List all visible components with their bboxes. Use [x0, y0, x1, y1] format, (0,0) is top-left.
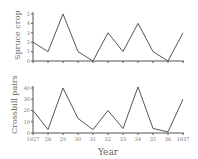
data-line	[33, 87, 183, 132]
x-tick-label: 31	[90, 136, 96, 142]
crossbill-pairs-ylabel: Crossbill pairs	[10, 75, 19, 134]
y-tick-label: 10	[24, 119, 30, 125]
y-tick-label: 1	[27, 48, 30, 54]
y-tick-label: 5	[27, 11, 30, 17]
y-tick-label: 30	[24, 96, 30, 102]
chart-canvas: 012345 010203040192728293031323334353619…	[0, 0, 198, 159]
y-tick-label: 2	[27, 39, 30, 45]
x-tick-label: 32	[105, 136, 111, 142]
y-tick-label: 4	[27, 20, 30, 26]
x-tick-label: 34	[135, 136, 141, 142]
x-tick-label: 30	[75, 136, 81, 142]
x-tick-label: 1937	[177, 136, 190, 142]
x-tick-label: 36	[165, 136, 171, 142]
x-tick-label: 35	[150, 136, 156, 142]
x-tick-label: 33	[120, 136, 126, 142]
y-tick-label: 40	[24, 85, 30, 91]
spruce-crop-ylabel: Spruce crop	[13, 10, 22, 60]
x-tick-label: 28	[45, 136, 51, 142]
spruce-crop-chart: 012345	[27, 11, 184, 64]
y-tick-label: 0	[27, 130, 30, 136]
x-axis-label: Year	[97, 147, 119, 157]
crossbill-pairs-chart: 01020304019272829303132333435361937	[24, 85, 190, 142]
y-tick-label: 3	[27, 30, 30, 36]
x-tick-label: 29	[60, 136, 66, 142]
y-tick-label: 20	[24, 107, 30, 113]
y-tick-label: 0	[27, 58, 30, 64]
x-tick-label: 1927	[27, 136, 40, 142]
data-line	[33, 14, 183, 61]
